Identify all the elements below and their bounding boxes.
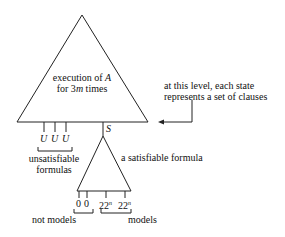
models-label: models [128,214,157,225]
unsat-leaf: U [51,133,58,144]
state-label: S [106,123,111,134]
not-models-label: not models [32,214,76,225]
level-annotation: at this level, each state represents a s… [164,80,267,102]
unsat-label: unsatisfiable formulas [18,153,90,175]
leaf-model: 22n [99,198,112,211]
execution-label: execution of A for 3m times [42,72,122,94]
satisfiable-label: a satisfiable formula [121,152,203,163]
diagram-canvas: execution of A for 3m times at this leve… [0,0,285,237]
leaf-zero: 0 [84,198,89,209]
unsat-leaf: U [40,133,47,144]
unsat-leaf: U [62,133,69,144]
leaf-zero: 0 [76,198,81,209]
execution-triangle [17,15,148,122]
diagram-lines [0,0,285,237]
leaf-model: 22n [118,198,131,211]
